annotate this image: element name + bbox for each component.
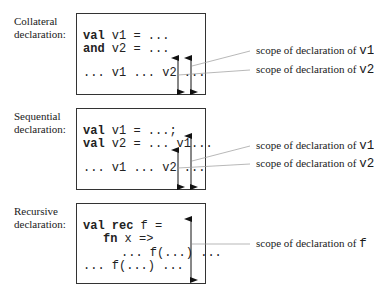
leader-line [178, 164, 250, 168]
leader-line [178, 70, 250, 75]
scope-arrows-overlay [0, 0, 374, 290]
leader-line [192, 51, 250, 66]
leader-line [192, 146, 250, 161]
